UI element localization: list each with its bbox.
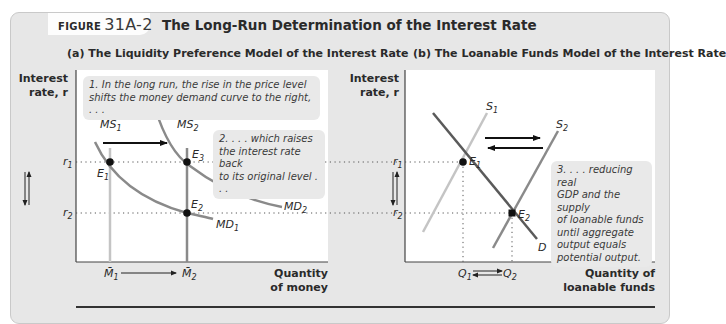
label-q1: Q1 xyxy=(458,267,472,282)
bottom-rule xyxy=(76,306,655,308)
note-3-line1: 3. . . . reducing real xyxy=(557,164,646,189)
label-q2: Q2 xyxy=(503,267,517,282)
note-3-line3: of loanable funds xyxy=(557,214,646,227)
point-e1-b xyxy=(459,158,467,166)
point-e1-a xyxy=(106,158,114,166)
point-e2-a xyxy=(183,209,191,217)
label-r1-a: r1 xyxy=(63,155,73,170)
note-1-line2: shifts the money demand curve to the rig… xyxy=(89,92,314,117)
label-m2: M̄2 xyxy=(182,267,197,282)
note-1: 1. In the long run, the rise in the pric… xyxy=(83,76,320,120)
note-2-line2: the interest rate back xyxy=(219,146,319,171)
note-3-line2: GDP and the supply xyxy=(557,189,646,214)
point-e3-a xyxy=(183,158,191,166)
label-r1-b: r1 xyxy=(393,155,403,170)
label-d: D xyxy=(538,241,546,254)
point-e2-b xyxy=(509,210,516,217)
note-3: 3. . . . reducing real GDP and the suppl… xyxy=(551,161,652,267)
note-3-line5: output equals xyxy=(557,239,646,252)
note-3-line4: until aggregate xyxy=(557,227,646,240)
note-1-line1: 1. In the long run, the rise in the pric… xyxy=(89,79,314,92)
note-2-line1: 2. . . . which raises xyxy=(219,133,319,146)
note-3-line6: potential output. xyxy=(557,252,646,265)
note-2: 2. . . . which raises the interest rate … xyxy=(213,130,325,199)
label-r2-b: r2 xyxy=(393,206,403,221)
label-r2-a: r2 xyxy=(63,206,73,221)
label-m1: M̄1 xyxy=(104,267,119,282)
note-2-line3: to its original level . . . xyxy=(219,171,319,196)
